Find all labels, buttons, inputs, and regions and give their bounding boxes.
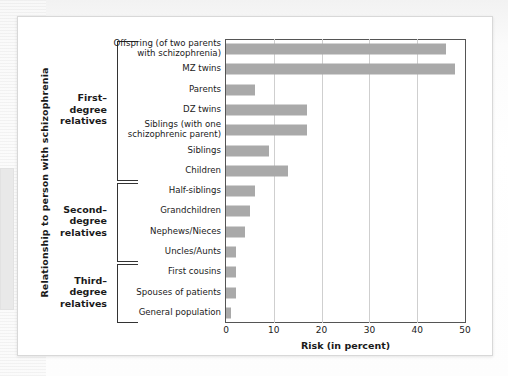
category-label: Nephews/Nieces bbox=[71, 227, 221, 237]
bar-row bbox=[225, 242, 466, 262]
bar bbox=[226, 145, 269, 156]
bar bbox=[226, 165, 288, 176]
category-label: General population bbox=[71, 308, 221, 318]
bar-row bbox=[225, 59, 466, 79]
category-label-line: schizophrenic parent) bbox=[71, 130, 221, 140]
bar bbox=[226, 226, 245, 237]
bar bbox=[226, 307, 231, 318]
bar bbox=[226, 287, 236, 298]
category-label: Offspring (of two parentswith schizophre… bbox=[71, 40, 221, 59]
category-label-line: with schizophrenia) bbox=[71, 49, 221, 59]
category-label: Parents bbox=[71, 85, 221, 95]
bar bbox=[226, 246, 236, 257]
bar-row bbox=[225, 262, 466, 282]
bar-row bbox=[225, 222, 466, 242]
x-tick-20: 20 bbox=[316, 325, 327, 335]
bar-row bbox=[225, 140, 466, 160]
category-label: Spouses of patients bbox=[71, 288, 221, 298]
category-label: Grandchildren bbox=[71, 207, 221, 217]
x-tick-50: 50 bbox=[459, 325, 470, 335]
x-tick-10: 10 bbox=[268, 325, 279, 335]
bar-row bbox=[225, 100, 466, 120]
category-label: First cousins bbox=[71, 267, 221, 277]
category-label: Siblings bbox=[71, 146, 221, 156]
bar-row bbox=[225, 303, 466, 323]
bar bbox=[226, 84, 255, 95]
bar-row bbox=[225, 201, 466, 221]
category-label: Siblings (with oneschizophrenic parent) bbox=[71, 121, 221, 140]
plot-area: Offspring (of two parentswith schizophre… bbox=[225, 39, 466, 323]
category-label: Half-siblings bbox=[71, 186, 221, 196]
chart-card: Relationship to person with schizophreni… bbox=[17, 16, 493, 356]
bar bbox=[226, 267, 236, 278]
category-label: Children bbox=[71, 166, 221, 176]
bar bbox=[226, 125, 307, 136]
x-tick-0: 0 bbox=[223, 325, 229, 335]
bar bbox=[226, 64, 455, 75]
category-label: Uncles/Aunts bbox=[71, 247, 221, 257]
bar-row bbox=[225, 161, 466, 181]
bar bbox=[226, 104, 307, 115]
bar bbox=[226, 186, 255, 197]
bar-row bbox=[225, 39, 466, 59]
x-tick-30: 30 bbox=[364, 325, 375, 335]
category-label: DZ twins bbox=[71, 105, 221, 115]
category-label: MZ twins bbox=[71, 65, 221, 75]
bar-row bbox=[225, 181, 466, 201]
bar bbox=[226, 206, 250, 217]
bar-row bbox=[225, 80, 466, 100]
bar bbox=[226, 44, 446, 55]
group-label-line: degree bbox=[33, 215, 107, 227]
x-axis-title: Risk (in percent) bbox=[225, 340, 466, 351]
bar-row bbox=[225, 120, 466, 140]
x-tick-40: 40 bbox=[411, 325, 422, 335]
bar-row bbox=[225, 282, 466, 302]
